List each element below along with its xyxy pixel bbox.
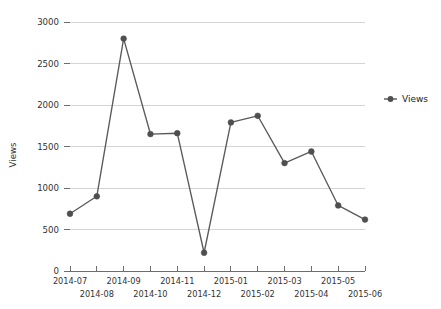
- series-views: [67, 36, 368, 256]
- x-tick-label: 2014-11: [160, 276, 194, 286]
- x-tick-label: 2014-09: [107, 276, 141, 286]
- y-axis-title: Views: [8, 142, 18, 167]
- y-tick-label: 0: [54, 266, 59, 276]
- data-point: [228, 120, 234, 126]
- x-tick-label: 2015-05: [321, 276, 355, 286]
- data-point: [94, 193, 100, 199]
- line-chart: 050010001500200025003000 2014-072014-082…: [0, 0, 441, 309]
- x-tick-label: 2015-03: [267, 276, 301, 286]
- y-tick-label: 2000: [37, 100, 59, 110]
- legend-label: Views: [402, 94, 428, 104]
- data-point: [67, 211, 73, 217]
- data-point: [121, 36, 127, 42]
- series-line: [70, 39, 365, 253]
- y-tick-label: 1000: [37, 183, 59, 193]
- x-tick-label: 2014-10: [133, 289, 167, 299]
- gridlines: [70, 22, 365, 230]
- legend: Views: [384, 94, 428, 104]
- y-tick-label: 500: [43, 225, 59, 235]
- data-point: [282, 160, 288, 166]
- data-point: [335, 203, 341, 209]
- x-tick-label: 2014-08: [80, 289, 114, 299]
- y-axis: 050010001500200025003000: [37, 17, 70, 276]
- chart-svg: 050010001500200025003000 2014-072014-082…: [0, 0, 441, 309]
- data-point: [201, 250, 207, 256]
- x-tick-label: 2015-01: [214, 276, 248, 286]
- x-tick-label: 2014-12: [187, 289, 221, 299]
- y-tick-label: 2500: [37, 59, 59, 69]
- x-tick-label: 2014-07: [53, 276, 87, 286]
- x-axis: 2014-072014-082014-092014-102014-112014-…: [53, 266, 382, 299]
- data-point: [362, 217, 368, 223]
- legend-marker-swatch: [388, 96, 394, 102]
- x-tick-label: 2015-06: [348, 289, 382, 299]
- y-tick-label: 3000: [37, 17, 59, 27]
- data-point: [174, 130, 180, 136]
- x-tick-label: 2015-02: [241, 289, 275, 299]
- data-point: [148, 131, 154, 137]
- x-tick-label: 2015-04: [294, 289, 328, 299]
- data-point: [255, 113, 261, 119]
- y-tick-label: 1500: [37, 142, 59, 152]
- data-point: [308, 149, 314, 155]
